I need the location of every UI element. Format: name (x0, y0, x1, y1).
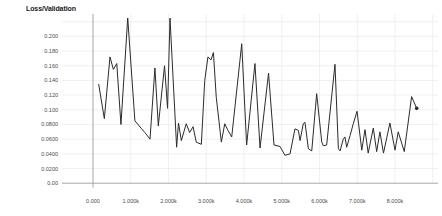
y-tick-label: 0.120 (44, 92, 58, 98)
y-tick-label: 0.180 (44, 48, 58, 54)
plot-area[interactable]: 0.000.02000.04000.06000.08000.1000.1200.… (0, 0, 442, 216)
x-tick-label: 7.000k (349, 198, 366, 204)
y-tick-label: 0.0400 (41, 151, 58, 157)
x-tick-label: 3.000k (198, 198, 215, 204)
y-tick-label: 0.200 (44, 33, 58, 39)
y-tick-label: 0.100 (44, 107, 58, 113)
y-tick-label: 0.0200 (41, 166, 58, 172)
y-tick-label: 0.00 (47, 180, 58, 186)
x-tick-label: 4.000k (236, 198, 253, 204)
loss-validation-chart-card: Loss/Validation 0.000.02000.04000.06000.… (0, 0, 442, 216)
x-tick-label: 2.000k (160, 198, 177, 204)
loss-validation-chart[interactable]: 0.000.02000.04000.06000.08000.1000.1200.… (0, 0, 442, 216)
y-tick-label: 0.0600 (41, 136, 58, 142)
x-tick-label: 6.000k (311, 198, 328, 204)
x-tick-label: 5.000k (273, 198, 290, 204)
x-tick-label: 8.000k (387, 198, 404, 204)
x-tick-label: 0.000 (86, 198, 100, 204)
chart-title: Loss/Validation (26, 5, 76, 12)
series-end-marker (415, 107, 419, 111)
y-tick-label: 0.160 (44, 63, 58, 69)
y-tick-label: 0.0800 (41, 121, 58, 127)
loss-series-line (99, 18, 417, 155)
y-tick-label: 0.140 (44, 77, 58, 83)
x-tick-label: 1.000k (122, 198, 139, 204)
